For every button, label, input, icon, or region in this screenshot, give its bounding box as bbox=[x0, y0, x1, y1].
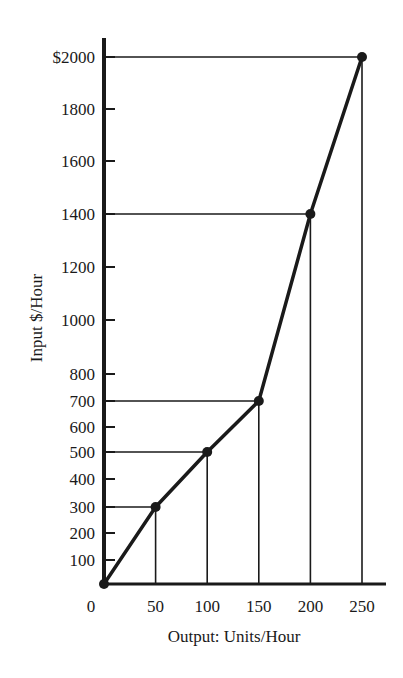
axes bbox=[102, 38, 386, 586]
y-tick-label: 700 bbox=[70, 392, 96, 411]
data-point bbox=[99, 579, 109, 589]
input-output-chart: 1002003004005006007008001000120014001600… bbox=[0, 0, 403, 678]
data-point bbox=[357, 52, 367, 62]
data-series bbox=[99, 52, 367, 589]
x-tick-label: 200 bbox=[298, 597, 324, 616]
y-tick-label: 100 bbox=[70, 551, 96, 570]
drop-lines bbox=[104, 57, 362, 584]
y-tick-label: 300 bbox=[70, 498, 96, 517]
x-tick-label: 100 bbox=[194, 597, 220, 616]
y-tick-label: 1800 bbox=[61, 100, 95, 119]
y-tick-label: 500 bbox=[70, 443, 96, 462]
x-tick-label: 250 bbox=[349, 597, 375, 616]
data-point bbox=[305, 209, 315, 219]
y-tick-label: 1400 bbox=[61, 205, 95, 224]
y-axis-title: Input $/Hour bbox=[27, 274, 46, 363]
series-line bbox=[104, 57, 362, 584]
x-axis-title: Output: Units/Hour bbox=[168, 627, 301, 646]
y-tick-label: 600 bbox=[70, 418, 96, 437]
y-tick-label: 1600 bbox=[61, 152, 95, 171]
data-point bbox=[202, 447, 212, 457]
y-tick-label: 400 bbox=[70, 470, 96, 489]
x-ticks: 050100150200250 bbox=[87, 597, 375, 616]
x-tick-label: 50 bbox=[147, 597, 164, 616]
y-tick-label: 1200 bbox=[61, 258, 95, 277]
y-tick-label: 200 bbox=[70, 524, 96, 543]
y-tick-label: 1000 bbox=[61, 311, 95, 330]
y-tick-label: 800 bbox=[70, 365, 96, 384]
y-tick-label: $2000 bbox=[53, 48, 96, 67]
data-point bbox=[254, 396, 264, 406]
x-tick-label: 150 bbox=[246, 597, 272, 616]
x-tick-label: 0 bbox=[87, 597, 96, 616]
data-point bbox=[151, 502, 161, 512]
